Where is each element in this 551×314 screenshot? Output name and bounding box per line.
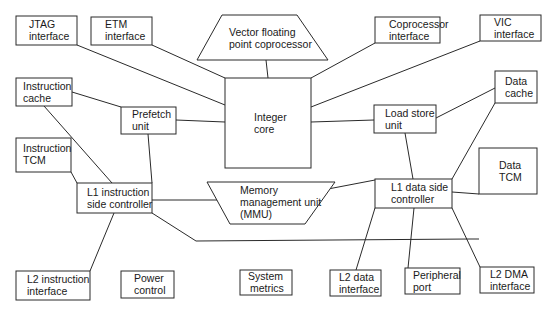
l1d-label-1: L1 data side [391,181,448,193]
l2d-label-1: L2 data [339,271,374,283]
wire-loadstore-l1d [405,133,413,179]
block-peripheral-port: Peripheral port [405,268,461,294]
power-label-1: Power [134,272,164,284]
l1d-label-2: controller [391,193,435,205]
jtag-label-1: JTAG [29,18,55,30]
block-integer-core: Integer core [225,78,311,168]
block-vector-floating-point-coprocessor: Vector floating point coprocessor [197,15,328,60]
block-power-control: Power control [121,271,174,298]
block-memory-management-unit: Memory management unit (MMU) [207,182,335,224]
jtag-label-2: interface [29,30,69,42]
etm-label-1: ETM [105,18,127,30]
block-data-cache: Data cache [495,71,537,103]
wire-vfp-core [266,60,268,78]
block-l1-instruction-side-controller: L1 instruction side controller [77,183,153,213]
block-instruction-tcm: Instruction TCM [16,138,72,172]
block-l2-data-interface: L2 data interface [330,270,381,296]
block-l2-instruction-interface: L2 instruction interface [16,271,90,300]
wire-mmu-l1d [328,180,375,189]
l2d-label-2: interface [339,283,379,295]
l2dma-label-1: L2 DMA [490,268,528,280]
dcache-label-1: Data [505,75,527,87]
etm-label-2: interface [105,30,145,42]
block-l1-data-side-controller: L1 data side controller [375,179,452,208]
wire-prefetch-l1i [148,134,152,183]
periph-label-1: Peripheral [413,269,461,281]
itcm-label-2: TCM [23,154,46,166]
block-vic-interface: VIC interface [480,15,541,41]
l2i-label-1: L2 instruction [27,273,90,285]
itcm-label-1: Instruction [23,142,72,154]
loadstore-label-2: unit [385,119,402,131]
block-system-metrics: System metrics [240,270,292,295]
block-prefetch-unit: Prefetch unit [121,107,176,134]
wire-l1d-l2d [356,208,375,270]
processor-block-diagram: JTAG interface ETM interface Vector floa… [0,0,551,314]
sysmet-label-1: System [248,270,283,282]
core-label-2: core [254,123,275,135]
wire-loadstore-dcache [436,88,495,118]
prefetch-label-1: Prefetch [132,108,171,120]
prefetch-label-2: unit [132,120,149,132]
sysmet-label-2: metrics [250,282,284,294]
dtcm-label-1: Data [499,159,521,171]
wire-itcm-l1i [71,172,77,183]
l1i-label-2: side controller [87,198,153,210]
vfp-label-2: point coprocessor [229,38,312,50]
block-data-tcm: Data TCM [479,148,537,194]
loadstore-label-1: Load store [385,107,435,119]
wire-l1i-bus [152,213,479,241]
vic-label-1: VIC [494,16,512,28]
wire-prefetch-core [176,120,225,122]
wire-l1d-l2dma [452,208,480,267]
block-coprocessor-interface: Coprocessor interface [375,17,449,43]
mmu-label-2: management unit [240,196,321,208]
block-jtag-interface: JTAG interface [16,16,77,45]
wire-vic-core [311,41,480,107]
power-label-2: control [134,284,166,296]
wire-l1d-periph [408,208,414,268]
vfp-label-1: Vector floating [229,26,296,38]
dcache-label-2: cache [505,87,533,99]
wire-l1d-dtcm [452,192,479,194]
dtcm-label-2: TCM [499,171,522,183]
wire-core-loadstore [311,120,374,122]
l1i-label-1: L1 instruction [87,186,150,198]
icache-label-2: cache [23,92,51,104]
block-instruction-cache: Instruction cache [16,78,72,106]
coproc-label-1: Coprocessor [389,18,449,30]
mmu-label-3: (MMU) [240,208,272,220]
periph-label-2: port [413,281,431,293]
block-load-store-unit: Load store unit [374,105,436,133]
vic-label-2: interface [494,28,534,40]
wire-icache-prefetch [72,92,121,107]
block-l2-dma-interface: L2 DMA interface [480,267,534,293]
mmu-label-1: Memory [240,184,279,196]
block-etm-interface: ETM interface [91,17,152,45]
wire-l1i-l2i [90,213,114,271]
core-label-1: Integer [254,111,287,123]
coproc-label-2: interface [389,30,429,42]
icache-label-1: Instruction [23,80,72,92]
l2dma-label-2: interface [490,280,530,292]
l2i-label-2: interface [27,285,67,297]
